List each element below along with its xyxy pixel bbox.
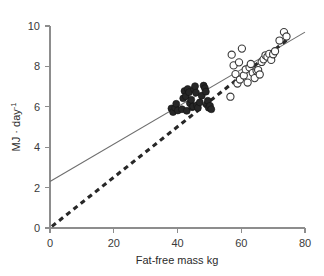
data-point-open	[244, 79, 251, 86]
data-point-open	[276, 37, 283, 44]
y-tick-label-6: 6	[34, 101, 40, 113]
data-point-filled	[202, 88, 209, 95]
y-axis-tick-labels: 0 2 4 6 8 10	[28, 20, 40, 234]
data-point-open	[235, 59, 242, 66]
y-tick-label-2: 2	[34, 182, 40, 194]
svg-text:MJ · day-1: MJ · day-1	[9, 103, 22, 152]
x-tick-label-80: 80	[299, 237, 311, 249]
x-tick-label-40: 40	[171, 237, 183, 249]
y-tick-label-8: 8	[34, 60, 40, 72]
data-point-open	[256, 71, 263, 78]
data-point-filled	[208, 106, 215, 113]
y-tick-label-10: 10	[28, 20, 40, 32]
data-point-filled	[173, 100, 180, 107]
x-axis-tick-labels: 0 20 40 60 80	[47, 237, 311, 249]
x-tick-label-20: 20	[108, 237, 120, 249]
x-axis-title: Fat-free mass kg	[136, 254, 219, 266]
data-point-open	[227, 93, 234, 100]
data-point-open	[238, 45, 245, 52]
y-axis-title-exponent: -1	[9, 103, 18, 110]
y-axis-title-base: MJ · day	[10, 109, 22, 152]
data-point-open	[228, 51, 235, 58]
y-tick-label-0: 0	[34, 222, 40, 234]
x-tick-label-60: 60	[235, 237, 247, 249]
open-circle-series	[227, 28, 290, 100]
y-tick-label-4: 4	[34, 141, 40, 153]
data-point-filled	[192, 83, 199, 90]
x-tick-label-0: 0	[47, 237, 53, 249]
x-axis-ticks	[50, 228, 305, 233]
scatter-plot-figure: 0 2 4 6 8 10 0 20 40 60 80 Fat-free mass…	[0, 0, 324, 276]
data-point-open	[247, 60, 254, 67]
data-point-open	[271, 48, 278, 55]
data-point-filled	[188, 96, 195, 103]
y-axis-ticks	[45, 26, 50, 228]
data-point-filled	[196, 99, 203, 106]
y-axis-title: MJ · day-1	[9, 103, 22, 152]
plot-canvas: 0 2 4 6 8 10 0 20 40 60 80 Fat-free mass…	[0, 0, 324, 276]
filled-circle-series	[168, 82, 215, 115]
data-point-open	[283, 33, 290, 40]
